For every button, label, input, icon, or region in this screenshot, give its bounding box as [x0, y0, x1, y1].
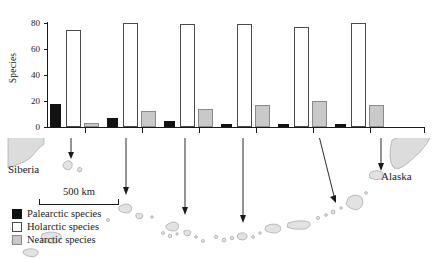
species-distribution-figure: Species 0 20 40 60 80 — [0, 0, 433, 259]
x-axis-line — [47, 127, 425, 128]
eastern-aleutian-islands — [316, 192, 367, 220]
y-axis-label: Species — [8, 38, 18, 98]
eastern-central-aleutian-islands — [214, 221, 310, 242]
bar-hol-group-4 — [237, 24, 252, 127]
y-tick-label-80: 80 — [20, 19, 40, 28]
bar-pal-group-6 — [335, 124, 346, 127]
y-tick-label-20: 20 — [20, 97, 40, 106]
x-tick-mark-6 — [370, 128, 371, 133]
bar-hol-group-6 — [351, 23, 366, 127]
bar-hol-group-3 — [180, 24, 195, 127]
x-tick-mark-1 — [85, 128, 86, 133]
legend-swatch-nearctic-icon — [12, 235, 22, 245]
bar-nea-group-5 — [312, 101, 327, 127]
bar-hol-group-5 — [294, 27, 309, 127]
x-tick-mark-5 — [313, 128, 314, 133]
arrow-group-5 — [318, 138, 336, 203]
map-label-siberia: Siberia — [8, 163, 39, 175]
bar-hol-group-1 — [66, 30, 81, 128]
bar-nea-group-6 — [369, 105, 384, 127]
bar-nea-group-1 — [84, 123, 99, 127]
arrow-group-2 — [123, 138, 129, 195]
commander-islands — [63, 161, 82, 172]
bar-pal-group-3 — [164, 121, 175, 128]
legend-label-holarctic: Holarctic species — [27, 221, 99, 232]
y-tick-label-60: 60 — [20, 45, 40, 54]
y-tick-label-40: 40 — [20, 71, 40, 80]
x-tick-mark-7 — [424, 128, 425, 133]
legend-label-palearctic: Palearctic species — [27, 208, 101, 219]
scale-bar-label: 500 km — [39, 186, 119, 197]
bar-pal-group-4 — [221, 124, 232, 127]
legend-label-nearctic: Nearctic species — [27, 234, 96, 245]
y-axis-line — [47, 22, 48, 128]
western-aleutian-islands — [106, 204, 153, 222]
scale-bar-rule — [39, 199, 119, 205]
map-label-alaska: Alaska — [381, 170, 412, 182]
bar-nea-group-2 — [141, 111, 156, 127]
bar-nea-group-4 — [255, 105, 270, 127]
central-aleutian-islands — [162, 222, 205, 243]
legend-item-nearctic: Nearctic species — [12, 233, 101, 246]
bar-pal-group-2 — [107, 118, 118, 127]
bar-pal-group-1 — [50, 104, 61, 127]
x-tick-mark-2 — [142, 128, 143, 133]
scale-bar: 500 km — [39, 186, 119, 206]
bar-pal-group-5 — [278, 124, 289, 127]
legend-item-holarctic: Holarctic species — [12, 220, 101, 233]
arrow-group-3 — [182, 138, 188, 215]
x-tick-mark-3 — [199, 128, 200, 133]
arrow-group-4 — [240, 138, 246, 223]
bar-chart: Species 0 20 40 60 80 — [0, 0, 433, 140]
arrow-group-6 — [378, 138, 384, 171]
y-tick-label-0: 0 — [20, 123, 40, 132]
arrow-group-1 — [68, 138, 74, 159]
bar-nea-group-3 — [198, 109, 213, 127]
legend-item-palearctic: Palearctic species — [12, 207, 101, 220]
x-tick-mark-4 — [256, 128, 257, 133]
bar-hol-group-2 — [123, 23, 138, 127]
legend-swatch-palearctic-icon — [12, 209, 22, 219]
legend-swatch-holarctic-icon — [12, 222, 22, 232]
chart-legend: Palearctic species Holarctic species Nea… — [12, 207, 101, 246]
